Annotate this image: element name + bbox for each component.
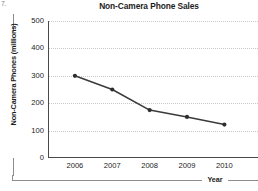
x-axis-title-group: Year xyxy=(12,175,258,185)
line-series xyxy=(48,21,258,158)
y-axis-tick-label: 200 xyxy=(20,99,44,107)
y-axis-tick-label: 500 xyxy=(20,17,44,25)
y-axis-tick-label: 100 xyxy=(20,127,44,135)
plot-area: 0100200300400500 20062007200820092010 xyxy=(48,21,258,158)
data-point-marker xyxy=(73,74,77,78)
data-point-marker xyxy=(185,115,189,119)
data-point-marker xyxy=(148,108,152,112)
x-axis-tick-label: 2010 xyxy=(209,161,239,170)
problem-number-label: 7. xyxy=(1,0,6,8)
y-axis-tick-label: 300 xyxy=(20,72,44,80)
y-axis-title: Non-Camera Phones (millions) xyxy=(9,12,18,138)
y-axis-title-rule-bottom xyxy=(13,158,14,176)
series-line xyxy=(75,76,224,125)
data-point-marker xyxy=(110,87,114,91)
y-axis-tick-label: 400 xyxy=(20,44,44,52)
data-point-marker xyxy=(222,122,226,126)
chart-figure: 7. Non-Camera Phone Sales Non-Camera Pho… xyxy=(0,0,258,191)
x-axis-title: Year xyxy=(204,175,226,185)
y-axis-title-group: Non-Camera Phones (millions) xyxy=(6,14,20,176)
x-axis-title-rule-left xyxy=(12,180,202,181)
x-axis-tick-label: 2007 xyxy=(97,161,127,170)
x-axis-title-rule-right xyxy=(228,180,258,181)
y-axis-tick-label: 0 xyxy=(20,154,44,162)
x-axis-tick-label: 2009 xyxy=(172,161,202,170)
x-axis-tick-label: 2006 xyxy=(60,161,90,170)
x-axis-tick-label: 2008 xyxy=(135,161,165,170)
chart-title: Non-Camera Phone Sales xyxy=(40,1,258,11)
